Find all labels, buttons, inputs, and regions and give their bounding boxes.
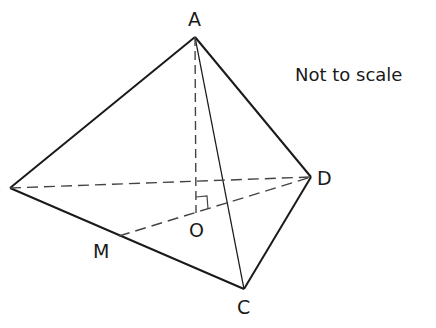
edge-ac — [195, 37, 244, 289]
label-c: C — [237, 296, 250, 318]
edge-ab — [10, 37, 195, 188]
right-angle-marker — [196, 196, 208, 209]
edge-bc — [10, 188, 244, 289]
edge-bd — [10, 177, 311, 188]
edge-ad — [195, 37, 311, 177]
label-d: D — [317, 167, 332, 189]
height-ao — [195, 37, 196, 213]
label-m: M — [93, 240, 109, 262]
label-b: B — [0, 177, 1, 199]
label-a: A — [188, 8, 201, 30]
pyramid-diagram: A B C D M O Not to scale — [0, 0, 436, 328]
label-o: O — [189, 219, 204, 241]
scale-note: Not to scale — [295, 64, 402, 85]
median-md — [119, 177, 311, 236]
